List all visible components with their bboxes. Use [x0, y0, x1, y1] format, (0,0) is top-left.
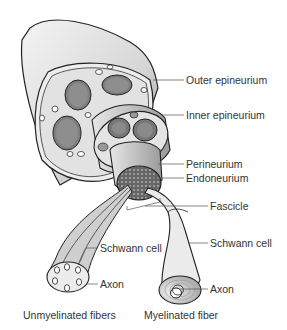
- caption-myelinated-fiber: Myelinated fiber: [144, 309, 218, 321]
- label-schwann-cell-unmyelinated: Schwann cell: [100, 242, 162, 254]
- caption-unmyelinated-fibers: Unmyelinated fibers: [23, 309, 116, 321]
- label-axon-unmyelinated: Axon: [100, 278, 124, 290]
- label-axon-myelinated: Axon: [210, 283, 234, 295]
- label-inner-epineurium: Inner epineurium: [186, 109, 265, 121]
- label-fascicle: Fascicle: [210, 200, 249, 212]
- label-endoneurium: Endoneurium: [186, 172, 248, 184]
- label-perineurium: Perineurium: [186, 158, 243, 170]
- label-outer-epineurium: Outer epineurium: [186, 74, 267, 86]
- label-schwann-cell-myelinated: Schwann cell: [210, 237, 272, 249]
- nerve-diagram: [0, 0, 287, 330]
